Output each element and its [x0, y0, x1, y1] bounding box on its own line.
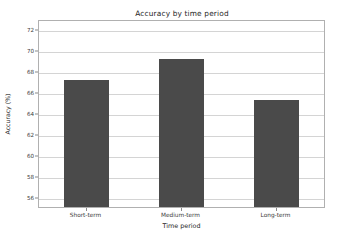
- chart-figure: Accuracy by time period 5658606264666870…: [0, 0, 345, 244]
- y-axis-ticks: 565860626466687072: [38, 20, 325, 208]
- y-tick-mark: [35, 30, 38, 31]
- y-tick-mark: [35, 72, 38, 73]
- y-tick-mark: [35, 93, 38, 94]
- x-tick-label: Long-term: [261, 212, 291, 218]
- x-tick-label: Short-term: [70, 212, 101, 218]
- y-tick-label: 56: [27, 195, 34, 201]
- y-tick-label: 62: [27, 132, 34, 138]
- y-tick-mark: [35, 155, 38, 156]
- y-tick-label: 60: [27, 153, 34, 159]
- y-tick-label: 72: [27, 27, 34, 33]
- chart-title: Accuracy by time period: [38, 9, 326, 18]
- y-axis-label: Accuracy (%): [4, 94, 11, 135]
- y-tick-label: 68: [27, 69, 34, 75]
- x-tick-label: Medium-term: [161, 212, 200, 218]
- y-tick-label: 64: [27, 111, 34, 117]
- y-tick-mark: [35, 197, 38, 198]
- y-tick-label: 66: [27, 90, 34, 96]
- y-tick-label: 58: [27, 174, 34, 180]
- y-tick-mark: [35, 114, 38, 115]
- y-tick-mark: [35, 51, 38, 52]
- y-tick-mark: [35, 176, 38, 177]
- x-tick-mark: [86, 208, 87, 211]
- x-axis-label: Time period: [38, 222, 325, 230]
- x-tick-mark: [181, 208, 182, 211]
- y-tick-mark: [35, 134, 38, 135]
- y-tick-label: 70: [27, 48, 34, 54]
- x-tick-mark: [276, 208, 277, 211]
